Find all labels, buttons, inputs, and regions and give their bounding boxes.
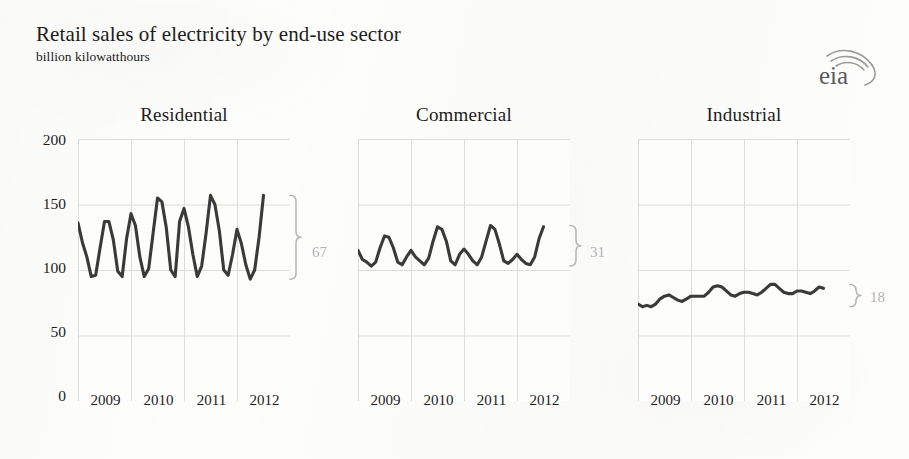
- y-tick-150: 150: [18, 195, 66, 213]
- y-tick-200: 200: [18, 131, 66, 149]
- range-value-commercial: 31: [590, 244, 605, 261]
- x-tick-commercial-2009: 2009: [359, 392, 412, 409]
- panel-title-residential: Residential: [78, 104, 290, 126]
- range-brace-commercial: [568, 139, 590, 401]
- x-tick-industrial-2010: 2010: [692, 392, 745, 409]
- y-tick-50: 50: [18, 323, 66, 341]
- x-tick-commercial-2010: 2010: [412, 392, 465, 409]
- x-tick-residential-2011: 2011: [185, 392, 238, 409]
- x-tick-commercial-2011: 2011: [465, 392, 518, 409]
- panel-plot-residential: [78, 139, 290, 401]
- x-tick-industrial-2011: 2011: [745, 392, 798, 409]
- range-brace-residential: [288, 139, 310, 401]
- x-tick-residential-2010: 2010: [132, 392, 185, 409]
- range-value-residential: 67: [312, 244, 327, 261]
- panel-plot-commercial: [358, 139, 570, 401]
- range-brace-industrial: [848, 139, 870, 401]
- y-tick-0: 0: [18, 387, 66, 405]
- panel-title-commercial: Commercial: [358, 104, 570, 126]
- x-tick-residential-2012: 2012: [238, 392, 291, 409]
- x-tick-residential-2009: 2009: [79, 392, 132, 409]
- x-tick-commercial-2012: 2012: [518, 392, 571, 409]
- range-value-industrial: 18: [870, 289, 885, 306]
- panel-plot-industrial: [638, 139, 850, 401]
- chart-panels: 200 150 100 50 0 Residential Commercial …: [0, 0, 909, 459]
- x-tick-industrial-2012: 2012: [798, 392, 851, 409]
- y-tick-100: 100: [18, 259, 66, 277]
- panel-title-industrial: Industrial: [638, 104, 850, 126]
- x-tick-industrial-2009: 2009: [639, 392, 692, 409]
